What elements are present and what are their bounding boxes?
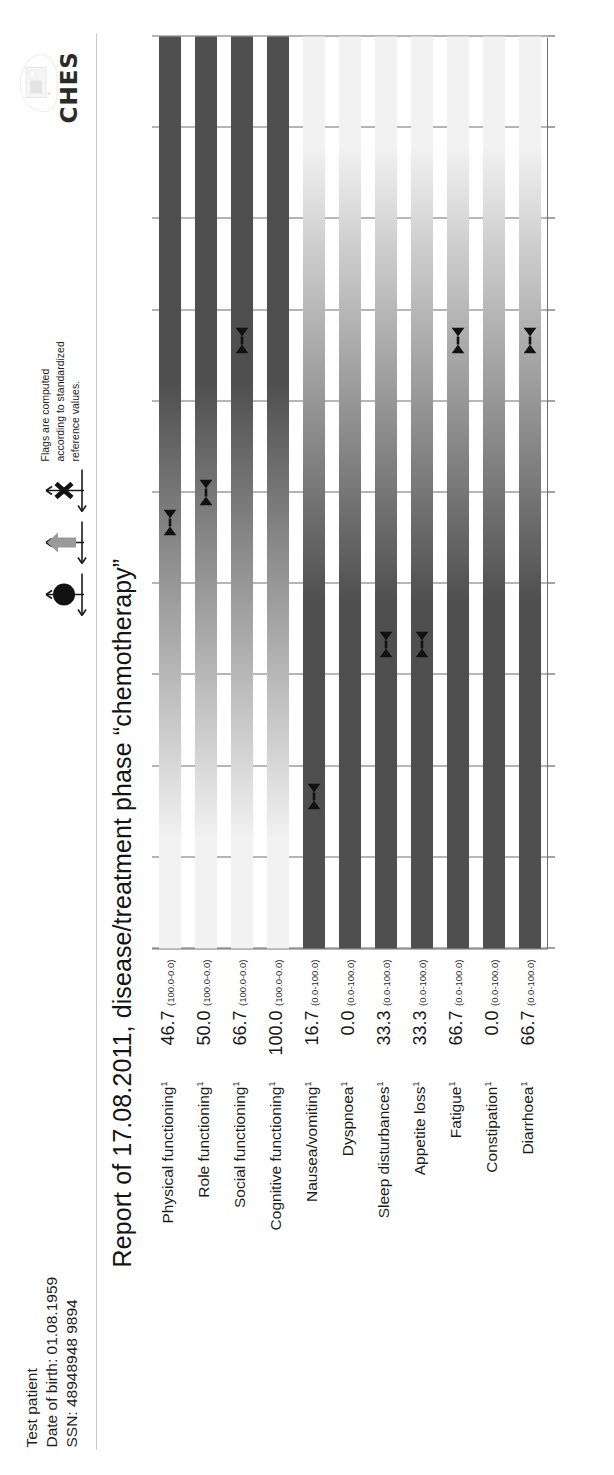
value-number: 33.3 [374, 1010, 394, 1045]
chart-axis-tick [548, 673, 555, 674]
chart-flag-marker [415, 631, 430, 657]
chart-value-label: 66.7 (100.0-0.0) [230, 959, 251, 1077]
value-number: 50.0 [194, 1010, 214, 1045]
chart-row [332, 37, 368, 948]
chart-row [152, 37, 188, 948]
chart-row [368, 37, 404, 948]
chart-row [404, 37, 440, 948]
chart-flag-marker [307, 783, 322, 809]
chart-row [476, 37, 512, 948]
chart-row [188, 37, 224, 948]
chart-flag-marker [235, 327, 250, 353]
header-divider [96, 33, 97, 1449]
chart-axis-tick [548, 765, 555, 766]
patient-ssn: SSN: 48948948 9894 [62, 1276, 82, 1447]
legend-line-1: Flags are computed [38, 321, 53, 461]
value-number: 66.7 [518, 1010, 538, 1045]
chart-row [512, 37, 548, 948]
value-number: 46.7 [158, 1010, 178, 1045]
flag-legend: Flags are computed according to standard… [26, 319, 102, 619]
value-range: (0.0-100.0) [345, 959, 356, 1005]
value-number: 66.7 [446, 1010, 466, 1045]
report-sheet: Test patient Date of birth: 01.08.1959 S… [0, 0, 614, 1475]
chart-value-label: 66.7 (0.0-100.0) [518, 959, 539, 1077]
chart-axis-tick [548, 491, 555, 492]
page-title: Report of 17.08.2011, disease/treatment … [108, 558, 137, 1267]
chart-value-label: 0.0 (0.0-100.0) [482, 959, 503, 1077]
patient-name: Test patient [22, 1276, 42, 1447]
value-range: (0.0-100.0) [525, 959, 536, 1005]
chart-row [296, 37, 332, 948]
value-number: 33.3 [410, 1010, 430, 1045]
legend-line-3: reference values. [68, 321, 83, 461]
chart-flag-marker [163, 509, 178, 535]
ches-logo: CHES [16, 25, 92, 133]
chart-axis-tick [548, 947, 555, 948]
ches-logo-mark [16, 43, 60, 117]
chart-value-labels: 46.7 (100.0-0.0)50.0 (100.0-0.0)66.7 (10… [152, 959, 548, 1259]
value-range: (100.0-0.0) [273, 959, 284, 1005]
chart-bar [447, 36, 469, 948]
chart-row [224, 37, 260, 948]
chart-value-label: 16.7 (0.0-100.0) [302, 959, 323, 1077]
chart-flag-marker [451, 327, 466, 353]
chart-plot-area [152, 37, 548, 949]
chart-bar [159, 36, 181, 948]
value-number: 66.7 [230, 1010, 250, 1045]
chart-axis-tick [548, 35, 555, 36]
chart-value-label: 100.0 (100.0-0.0) [266, 959, 287, 1077]
chart-value-label: 33.3 (0.0-100.0) [374, 959, 395, 1077]
report-canvas: Test patient Date of birth: 01.08.1959 S… [0, 0, 614, 1475]
chart-axis-tick [548, 126, 555, 127]
chart-axis-tick [548, 309, 555, 310]
chart-bar [483, 36, 505, 948]
value-range: (0.0-100.0) [381, 959, 392, 1005]
ches-logo-text: CHES [56, 51, 82, 123]
chart-bar [411, 36, 433, 948]
chart-bar [339, 36, 361, 948]
chart-value-label: 33.3 (0.0-100.0) [410, 959, 431, 1077]
chart-flag-marker [379, 631, 394, 657]
chart-axis-tick [548, 400, 555, 401]
chart-bar [519, 36, 541, 948]
chart-row [260, 37, 296, 948]
value-range: (0.0-100.0) [489, 959, 500, 1005]
value-range: (100.0-0.0) [201, 959, 212, 1005]
chart-value-label: 46.7 (100.0-0.0) [158, 959, 179, 1077]
value-range: (100.0-0.0) [237, 959, 248, 1005]
chart-axis-tick [548, 856, 555, 857]
chart-bar [303, 36, 325, 948]
chart-row [440, 37, 476, 948]
patient-dob: Date of birth: 01.08.1959 [42, 1276, 62, 1447]
value-range: (0.0-100.0) [453, 959, 464, 1005]
legend-icons [40, 467, 94, 619]
value-range: (0.0-100.0) [417, 959, 428, 1005]
patient-info: Test patient Date of birth: 01.08.1959 S… [22, 1276, 81, 1447]
chart-value-label: 66.7 (0.0-100.0) [446, 959, 467, 1077]
hrqol-chart: Physical functioning1Role functioning1So… [152, 37, 582, 1259]
value-number: 16.7 [302, 1010, 322, 1045]
value-number: 100.0 [266, 1010, 286, 1055]
legend-line-2: according to standardized [53, 321, 68, 461]
chart-bar [231, 36, 253, 948]
chart-axis-tick [548, 217, 555, 218]
chart-flag-marker [523, 327, 538, 353]
legend-text: Flags are computed according to standard… [38, 321, 84, 461]
value-range: (0.0-100.0) [309, 959, 320, 1005]
value-number: 0.0 [338, 1010, 358, 1035]
value-number: 0.0 [482, 1010, 502, 1035]
chart-bar [375, 36, 397, 948]
chart-axis-tick [548, 582, 555, 583]
chart-value-label: 50.0 (100.0-0.0) [194, 959, 215, 1077]
report-header: Test patient Date of birth: 01.08.1959 S… [18, 19, 102, 1449]
chart-bar [267, 36, 289, 948]
chart-flag-marker [199, 479, 214, 505]
chart-value-label: 0.0 (0.0-100.0) [338, 959, 359, 1077]
value-range: (100.0-0.0) [165, 959, 176, 1005]
